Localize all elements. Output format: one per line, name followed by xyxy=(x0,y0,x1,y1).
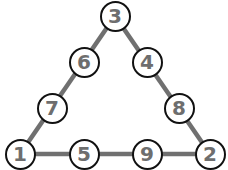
node-left-lower: 7 xyxy=(37,93,68,124)
edge-left xyxy=(20,16,115,154)
node-bottom-right: 2 xyxy=(195,139,226,170)
node-left-upper: 6 xyxy=(69,47,100,78)
node-bottom-mid-left: 5 xyxy=(69,139,100,170)
node-top: 3 xyxy=(100,1,131,32)
node-right-lower: 8 xyxy=(164,93,195,124)
node-bottom-mid-right: 9 xyxy=(132,139,163,170)
node-bottom-left: 1 xyxy=(5,139,36,170)
edge-right xyxy=(115,16,210,154)
node-right-upper: 4 xyxy=(132,47,163,78)
magic-triangle-diagram: 3 6 4 7 8 1 5 9 2 xyxy=(0,0,228,170)
